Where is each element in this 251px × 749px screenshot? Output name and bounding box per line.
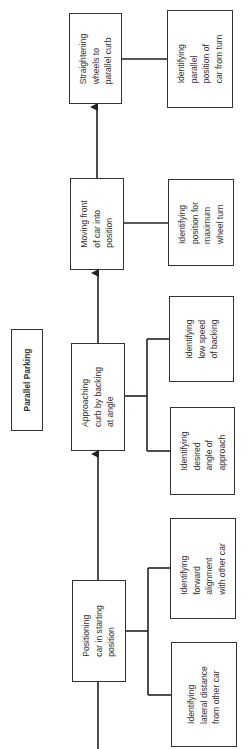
- step-label: Positioning car in starting position: [80, 605, 118, 657]
- subtask-label: Identifying forward alignment with other…: [178, 543, 228, 595]
- step-moving-front: Moving front of car into position: [70, 178, 124, 270]
- subtask-label: Identifying desired angle of approach: [177, 431, 227, 470]
- step-approaching: Approaching curb by backing at angle: [71, 343, 125, 451]
- diagram-title-box: Parallel Parking: [11, 329, 43, 431]
- subtask-label: Identifying position for maximum wheel t…: [176, 201, 226, 243]
- subtask-max-wheel-turn: Identifying position for maximum wheel t…: [168, 179, 234, 266]
- subtask-desired-angle: Identifying desired angle of approach: [170, 407, 235, 495]
- step-label: Approaching curb by backing at angle: [79, 367, 117, 427]
- step-positioning: Positioning car in starting position: [72, 580, 126, 682]
- subtask-label: Identifying parallel position of car fro…: [175, 35, 225, 84]
- subtask-parallel-position: Identifying parallel position of car fro…: [167, 10, 233, 108]
- subtask-low-speed: Identifying low speed of backing: [169, 296, 234, 382]
- diagram-title: Parallel Parking: [21, 349, 34, 412]
- subtask-label: Identifying low speed of backing: [183, 319, 221, 358]
- step-label: Straightening wheels to parallel curb: [77, 33, 115, 84]
- step-label: Moving front of car into position: [78, 200, 116, 247]
- subtask-lateral-distance: Identifying lateral distance from other …: [171, 642, 237, 747]
- subtask-forward-alignment: Identifying forward alignment with other…: [170, 518, 236, 619]
- step-straightening: Straightening wheels to parallel curb: [69, 13, 122, 104]
- subtask-label: Identifying lateral distance from other …: [185, 666, 223, 724]
